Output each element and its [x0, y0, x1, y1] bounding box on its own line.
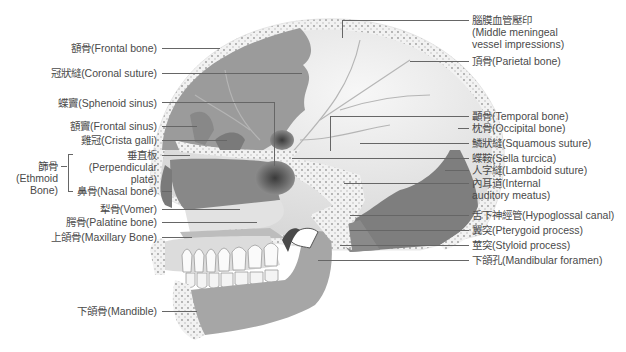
label-vomer: 犁骨(Vomer) [0, 203, 157, 215]
label-middle-meningeal-en1: (Middle meningeal [472, 26, 558, 38]
leader-frontal-sinus [162, 126, 197, 127]
leader-middle-meningeal [342, 20, 469, 21]
leader-pterygoid-process [350, 230, 469, 231]
leader-squamous-suture [360, 143, 469, 144]
leader-palatine-bone [162, 222, 257, 223]
leader-coronal-suture [162, 73, 302, 74]
leader-perpendicular-plate [162, 155, 190, 156]
leader-mandibular-foramen [318, 260, 469, 261]
label-ethmoid-zh: 篩骨 [28, 160, 58, 172]
label-sella-turcica: 蝶鞍(Sella turcica) [472, 152, 556, 164]
label-nasal-bone: 鼻骨(Nasal bone) [60, 185, 157, 197]
label-squamous-suture: 鱗狀縫(Squamous suture) [472, 137, 591, 149]
label-internal-auditory-meatus-zh: 內耳道(Internal [472, 177, 541, 189]
leader-maxillary-bone [162, 237, 192, 238]
label-perpendicular-plate-en1: (Perpendicular [60, 161, 157, 173]
label-mandible: 下頜骨(Mandible) [0, 305, 157, 317]
label-middle-meningeal-en2: vessel impressions) [472, 38, 564, 50]
label-mandibular-foramen: 下頜孔(Mandibular foramen) [472, 254, 602, 266]
label-ethmoid-en1: (Ethmoid [0, 172, 58, 184]
label-palatine-bone: 腭骨(Palatine bone) [0, 216, 157, 228]
leader-temporal-bone [330, 116, 469, 117]
label-crista-galli: 雞冠(Crista galli) [0, 134, 157, 146]
leader-hypoglossal-canal [350, 215, 469, 216]
leader-nasal-bone [162, 191, 172, 192]
label-pterygoid-process: 翼突(Pterygoid process) [472, 224, 583, 236]
label-ethmoid-en2: Bone) [0, 184, 58, 196]
label-occipital-bone: 枕骨(Occipital bone) [472, 122, 566, 134]
leader-frontal-bone [162, 48, 220, 49]
leader-mandible [162, 311, 197, 312]
leader-vomer [162, 209, 240, 210]
leader-styloid-process [340, 245, 469, 246]
label-maxillary-bone: 上頜骨(Maxillary Bone) [0, 231, 157, 243]
leader-lambdoid-suture [445, 170, 469, 171]
label-sphenoid-sinus: 蝶竇(Sphenoid sinus) [0, 97, 157, 109]
label-frontal-bone: 額骨(Frontal bone) [0, 42, 157, 54]
label-lambdoid-suture: 人字縫(Lambdoid suture) [472, 164, 587, 176]
label-styloid-process: 莖突(Styloid process) [472, 239, 570, 251]
label-hypoglossal-canal: 舌下神經管(Hypoglossal canal) [472, 209, 614, 221]
leader-parietal-bone [410, 61, 469, 62]
leader-internal-auditory-meatus [344, 183, 469, 184]
label-middle-meningeal-zh: 腦膜血管壓印 [472, 14, 532, 26]
leader-crista-galli [162, 140, 227, 141]
label-parietal-bone: 頂骨(Parietal bone) [472, 55, 561, 67]
label-coronal-suture: 冠狀縫(Coronal suture) [0, 67, 157, 79]
label-perpendicular-plate-zh: 垂直板 [60, 149, 157, 161]
label-frontal-sinus: 額竇(Frontal sinus) [0, 120, 157, 132]
skull-diagram: 額骨(Frontal bone) 冠狀縫(Coronal suture) 蝶竇(… [0, 0, 626, 352]
label-perpendicular-plate-en2: plate) [60, 173, 157, 185]
label-internal-auditory-meatus-en: auditory meatus) [472, 189, 550, 201]
label-temporal-bone: 顳骨(Temporal bone) [472, 110, 568, 122]
leader-sella-turcica [292, 158, 469, 159]
leader-occipital-bone [458, 128, 469, 129]
leader-sphenoid-sinus [162, 102, 274, 103]
